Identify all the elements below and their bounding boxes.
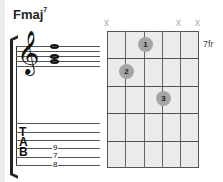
fretboard: [107, 31, 199, 168]
start-fret-label: 7fr: [203, 39, 214, 49]
muted-string-icon: x: [104, 17, 109, 28]
tab-fret-number: 7: [52, 152, 58, 160]
left-margin-strip: [0, 0, 5, 182]
note-f: [50, 59, 59, 64]
muted-string-icon: x: [176, 17, 181, 28]
string-line: [125, 31, 126, 168]
fret-line: [107, 141, 199, 142]
finger-dot: 2: [119, 64, 134, 79]
tab-line: [16, 140, 100, 141]
fret-line: [107, 58, 199, 59]
muted-string-icon: x: [195, 17, 200, 28]
tab-fret-number: 8: [52, 161, 58, 169]
tab-letter-b: B: [19, 147, 28, 157]
fret-line: [107, 113, 199, 114]
bracket-bottom-hook: [10, 172, 18, 179]
string-line: [180, 31, 181, 168]
note-c: [50, 44, 59, 49]
tab-line: [16, 123, 100, 124]
fret-line: [107, 86, 199, 87]
finger-dot: 1: [138, 37, 153, 52]
chord-name: Fmaj: [13, 7, 43, 22]
system-bracket: [10, 41, 13, 174]
chord-extension: 7: [43, 6, 47, 13]
tab-line: [16, 132, 100, 133]
treble-clef-icon: 𝄞: [17, 32, 39, 72]
finger-dot: 3: [156, 91, 171, 106]
chord-title: Fmaj7: [13, 7, 47, 22]
note-separator: [50, 57, 59, 58]
